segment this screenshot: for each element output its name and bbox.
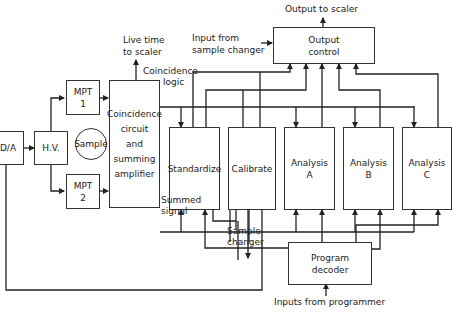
sample-changer-label-2: changer xyxy=(227,237,264,248)
live-time-label-1: Live time xyxy=(123,35,165,46)
summed-signal-label-2: signal xyxy=(161,206,188,217)
mpt2-block: MPT2 xyxy=(66,174,100,209)
analysis-c-letter: C xyxy=(424,169,430,181)
mpt1-block: MPT1 xyxy=(66,80,100,115)
mpt1-num: 1 xyxy=(80,98,86,110)
output-control-l1: Output xyxy=(308,34,339,46)
summed-signal-label-1: Summed xyxy=(161,195,201,206)
mpt2-num: 2 xyxy=(80,192,86,204)
analysis-c-label: Analysis xyxy=(408,157,445,169)
standardize-label: Standardize xyxy=(168,163,222,175)
analysis-a-block: AnalysisA xyxy=(284,127,335,210)
coinc-l1: Coincidence xyxy=(107,107,162,122)
calibrate-block: Calibrate xyxy=(228,127,276,210)
analysis-b-label: Analysis xyxy=(350,157,387,169)
da-label: D/A xyxy=(0,142,16,154)
output-to-scaler-label: Output to scaler xyxy=(285,4,358,15)
hv-block: H.V. xyxy=(34,131,68,165)
mpt2-label: MPT xyxy=(74,180,93,192)
analysis-a-letter: A xyxy=(306,169,312,181)
coinc-l5: amplifier xyxy=(115,167,155,182)
sample-circle: Sample xyxy=(75,128,107,160)
analysis-b-letter: B xyxy=(365,169,371,181)
output-control-l2: control xyxy=(308,46,339,58)
input-sample-changer-label-1: Input from xyxy=(192,33,239,44)
calibrate-label: Calibrate xyxy=(232,163,273,175)
program-decoder-l1: Program xyxy=(311,252,349,264)
coincidence-logic-label-1: Coincidence xyxy=(143,66,198,77)
coinc-l3: and xyxy=(126,137,143,152)
da-block: D/A xyxy=(0,131,24,165)
sample-label: Sample xyxy=(74,139,108,149)
input-sample-changer-label-2: sample changer xyxy=(192,45,264,56)
analysis-a-label: Analysis xyxy=(291,157,328,169)
live-time-label-2: to scaler xyxy=(123,47,162,58)
output-control-block: Outputcontrol xyxy=(273,27,375,64)
program-decoder-block: Programdecoder xyxy=(288,242,372,285)
sample-changer-label-1: Sample xyxy=(227,226,261,237)
inputs-from-programmer-label: Inputs from programmer xyxy=(274,297,385,308)
program-decoder-l2: decoder xyxy=(312,264,349,276)
analysis-b-block: AnalysisB xyxy=(343,127,394,210)
hv-label: H.V. xyxy=(42,142,59,154)
coincidence-block: Coincidence circuit and summing amplifie… xyxy=(109,80,160,208)
coinc-l4: summing xyxy=(114,152,156,167)
coinc-l2: circuit xyxy=(121,122,149,137)
coincidence-logic-label-2: logic xyxy=(163,77,184,88)
analysis-c-block: AnalysisC xyxy=(402,127,452,210)
mpt1-label: MPT xyxy=(74,86,93,98)
